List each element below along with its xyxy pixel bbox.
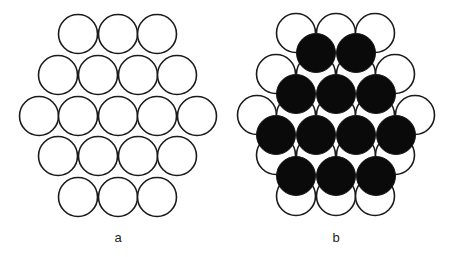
open-sphere: [158, 56, 197, 95]
panel-a-label: a: [114, 230, 122, 245]
open-sphere: [79, 56, 118, 95]
open-sphere: [39, 137, 78, 176]
open-sphere: [158, 137, 197, 176]
open-sphere: [138, 97, 177, 136]
open-sphere: [59, 15, 98, 54]
filled-sphere: [337, 116, 376, 155]
filled-sphere: [357, 157, 396, 196]
open-sphere: [138, 178, 177, 217]
open-sphere: [178, 97, 217, 136]
filled-sphere: [297, 34, 336, 73]
open-sphere: [99, 178, 138, 217]
panel-b-label: b: [332, 230, 339, 245]
open-sphere: [39, 56, 78, 95]
filled-sphere: [277, 75, 316, 114]
panel-b-two-layers: [238, 14, 435, 216]
filled-sphere: [317, 157, 356, 196]
filled-sphere: [297, 116, 336, 155]
panel-a-single-layer: [20, 15, 217, 217]
open-sphere: [59, 97, 98, 136]
layer-open: [20, 15, 217, 217]
open-sphere: [99, 15, 138, 54]
open-sphere: [59, 178, 98, 217]
filled-sphere: [277, 157, 316, 196]
filled-sphere: [357, 75, 396, 114]
open-sphere: [119, 56, 158, 95]
open-sphere: [138, 15, 177, 54]
packing-diagram: a b: [0, 0, 452, 257]
open-sphere: [20, 97, 59, 136]
filled-sphere: [377, 116, 416, 155]
filled-sphere: [337, 34, 376, 73]
open-sphere: [79, 137, 118, 176]
open-sphere: [99, 97, 138, 136]
filled-sphere: [317, 75, 356, 114]
filled-sphere: [257, 116, 296, 155]
open-sphere: [119, 137, 158, 176]
